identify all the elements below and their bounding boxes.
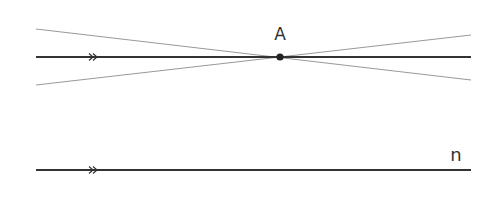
secant-line-1 bbox=[36, 29, 471, 80]
line-n-label: n bbox=[450, 144, 461, 165]
point-a bbox=[276, 53, 283, 60]
parallel-lines-diagram: A n bbox=[0, 0, 504, 208]
secant-line-2 bbox=[36, 35, 471, 85]
point-a-label: A bbox=[274, 24, 286, 44]
